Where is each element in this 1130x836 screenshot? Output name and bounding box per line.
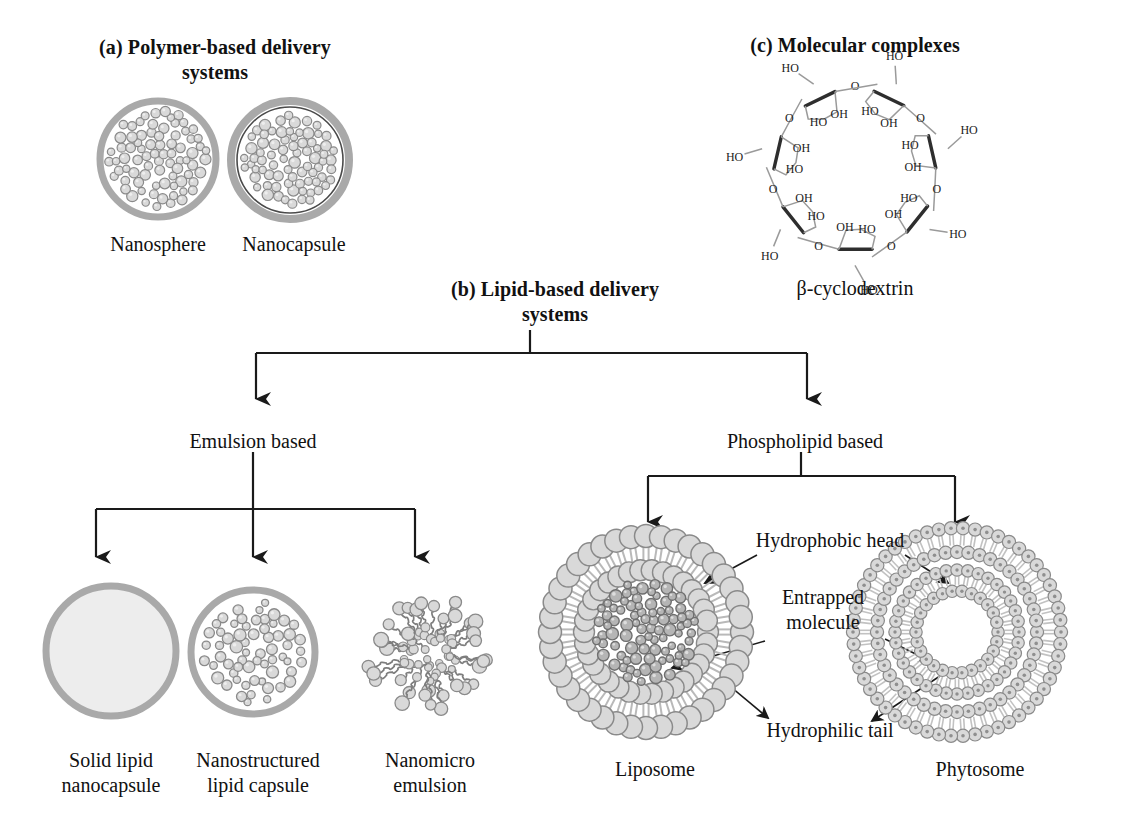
panel-a-title-line1: (a) Polymer-based delivery (70, 35, 360, 60)
nanomicro-emulsion-label: Nanomicro emulsion (345, 748, 515, 798)
nanomicro-line2: emulsion (345, 773, 515, 798)
cyclodextrin-label: β-cyclodextrin (700, 276, 1010, 301)
entrapped-line2: molecule (758, 610, 888, 635)
svg-text:HO: HO (782, 61, 800, 75)
nanostructured-lipid-capsule-label: Nanostructured lipid capsule (168, 748, 348, 798)
svg-text:OH: OH (836, 220, 854, 234)
svg-text:OH: OH (795, 191, 813, 205)
panel-b-title-line2: systems (400, 302, 710, 327)
svg-text:HO: HO (726, 150, 744, 164)
entrapped-line1: Entrapped (758, 585, 888, 610)
svg-text:OH: OH (831, 107, 849, 121)
svg-text:HO: HO (810, 115, 828, 129)
svg-text:OH: OH (904, 160, 922, 174)
cyclodextrin-svg: OHOOHHOOHOOHHOOHOOHHOOHOOHHOOHOOHHOOHOOH… (700, 58, 1010, 283)
nanosphere-svg (93, 93, 223, 225)
panel-b-title-line1: (b) Lipid-based delivery (400, 277, 710, 302)
phytosome-label: Phytosome (890, 757, 1070, 782)
nanostructured-svg (183, 582, 323, 722)
solid-lipid-svg (38, 578, 184, 724)
liposome-label: Liposome (565, 757, 745, 782)
svg-text:O: O (851, 79, 860, 93)
nanostructured-line1: Nanostructured (168, 748, 348, 773)
svg-text:O: O (916, 111, 925, 125)
svg-text:HO: HO (886, 49, 904, 63)
nanostructured-line2: lipid capsule (168, 773, 348, 798)
cyclodextrin-structure: OHOOHHOOHOOHHOOHOOHHOOHOOHHOOHOOHHOOHOOH… (700, 58, 1010, 283)
svg-text:HO: HO (786, 162, 804, 176)
svg-text:O: O (769, 182, 778, 196)
node-emulsion-based: Emulsion based (153, 430, 353, 453)
svg-text:O: O (814, 239, 823, 253)
nanosphere-structure (93, 93, 223, 225)
svg-text:HO: HO (861, 104, 879, 118)
svg-text:O: O (785, 111, 794, 125)
node-phospholipid-based: Phospholipid based (690, 430, 920, 453)
callout-entrapped-molecule: Entrapped molecule (758, 585, 888, 635)
svg-text:OH: OH (885, 207, 903, 221)
nanocapsule-label: Nanocapsule (214, 232, 374, 257)
nanocapsule-svg (222, 93, 358, 227)
svg-text:HO: HO (807, 209, 825, 223)
svg-text:HO: HO (949, 227, 967, 241)
svg-text:HO: HO (960, 123, 978, 137)
svg-text:HO: HO (901, 138, 919, 152)
nanomicro-emulsion-structure (340, 568, 520, 740)
svg-text:O: O (933, 182, 942, 196)
svg-text:HO: HO (900, 191, 918, 205)
svg-text:OH: OH (793, 141, 811, 155)
panel-a-title: (a) Polymer-based delivery systems (70, 35, 360, 85)
panel-a-title-line2: systems (70, 60, 360, 85)
svg-text:OH: OH (880, 116, 898, 130)
svg-text:HO: HO (761, 249, 779, 263)
callout-hydrophilic-tail: Hydrophilic tail (740, 718, 920, 743)
panel-c-title: (c) Molecular complexes (660, 33, 1050, 58)
panel-b-title: (b) Lipid-based delivery systems (400, 277, 710, 327)
svg-text:O: O (887, 239, 896, 253)
nanomicro-svg (340, 568, 520, 740)
svg-text:HO: HO (858, 222, 876, 236)
callout-hydrophobic-head: Hydrophobic head (735, 528, 925, 553)
nanocapsule-structure (222, 93, 358, 227)
figure-canvas: (a) Polymer-based delivery systems Nanos… (0, 0, 1130, 836)
solid-lipid-nanocapsule-structure (38, 578, 184, 724)
nanomicro-line1: Nanomicro (345, 748, 515, 773)
nanostructured-lipid-capsule-structure (183, 582, 323, 722)
